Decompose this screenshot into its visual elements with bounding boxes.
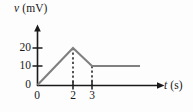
x-axis-variable: t	[164, 79, 167, 91]
x-axis-label: t (s)	[164, 80, 183, 92]
y-axis-unit: (mV)	[22, 2, 47, 14]
y-tick-label-0: 0	[11, 79, 31, 91]
x-tick-label-0: 0	[31, 90, 43, 102]
y-tick-label-10: 10	[11, 60, 31, 72]
x-tick-label-3: 3	[86, 90, 98, 102]
x-tick-label-2: 2	[67, 90, 79, 102]
voltage-curve	[38, 48, 141, 85]
y-axis-label: v (mV)	[14, 3, 48, 15]
x-axis-unit: (s)	[170, 79, 182, 91]
y-axis-arrowhead	[34, 25, 41, 32]
v-t-graph-figure: v (mV) t (s) 20 10 0 0 2 3	[0, 0, 193, 112]
y-tick-label-20: 20	[11, 42, 31, 54]
y-axis-variable: v	[14, 2, 19, 14]
